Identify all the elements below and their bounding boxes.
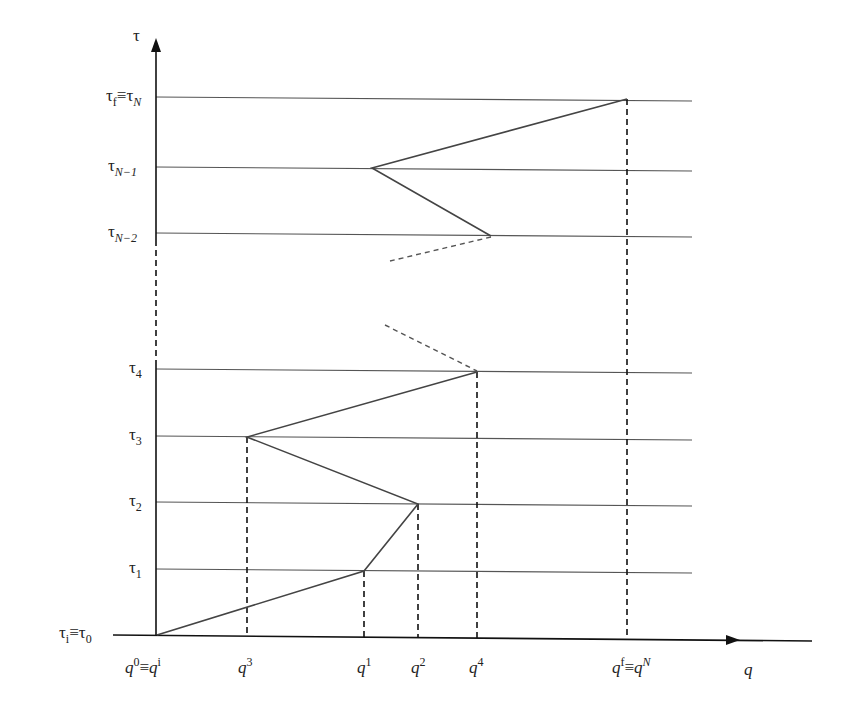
q-label-0: q0≡qi — [125, 655, 161, 678]
vertical-axis — [151, 38, 161, 636]
tau-label-n-1: τN−1 — [108, 156, 137, 180]
path-gap-dashed — [385, 237, 491, 371]
q-label-f: qf≡qN — [612, 655, 651, 678]
horizontal-axis — [113, 635, 812, 645]
tau-label-2: τ2 — [129, 491, 142, 515]
path-polyline-top — [372, 99, 627, 236]
tau-label-1: τ1 — [129, 558, 142, 582]
tau-label-origin: τi≡τ0 — [59, 623, 92, 647]
tau-level-lines — [156, 97, 692, 573]
projection-lines — [247, 99, 627, 639]
tau-label-4: τ4 — [129, 358, 142, 382]
vertical-axis-label: τ — [133, 26, 140, 46]
q-label-2: q2 — [411, 655, 426, 678]
q-label-3: q3 — [238, 655, 253, 678]
tau-label-f: τf≡τN — [106, 86, 141, 110]
q-label-1: q1 — [357, 655, 372, 678]
horizontal-axis-label: q — [744, 660, 753, 680]
tau-label-3: τ3 — [129, 425, 142, 449]
tau-label-n-2: τN−2 — [108, 222, 137, 246]
q-label-4: q4 — [469, 655, 484, 678]
